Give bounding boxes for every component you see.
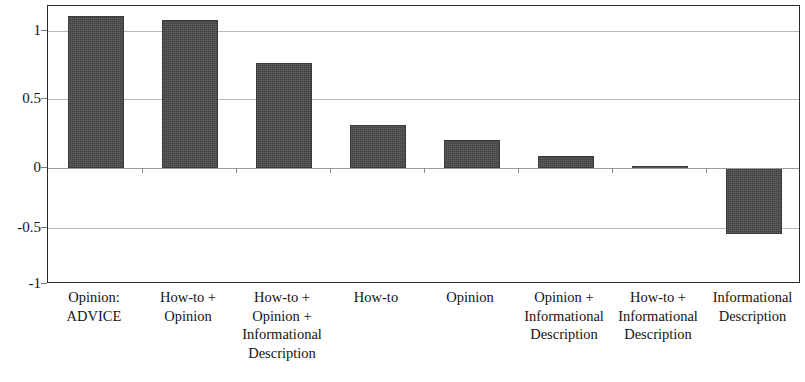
gridline--0.5 — [48, 228, 799, 229]
y-axis-tick-label-0: 0 — [0, 160, 41, 175]
x-axis-tick-7 — [706, 168, 707, 173]
x-axis-label-howto-opinion-informational: How-to + Opinion + Informational Descrip… — [235, 288, 329, 362]
x-axis-tick-3 — [330, 168, 331, 173]
bar-opinion-informational — [538, 156, 594, 168]
x-axis-tick-4 — [424, 168, 425, 173]
x-axis-tick-6 — [612, 168, 613, 173]
x-axis-label-opinion: Opinion — [423, 288, 517, 307]
x-axis-category-labels: Opinion: ADVICE How-to + Opinion How-to … — [47, 288, 800, 382]
y-axis-tick-label-0.5: 0.5 — [0, 91, 41, 106]
gridline-1 — [48, 31, 799, 32]
bar-informational-description — [726, 168, 782, 234]
x-axis-tick-2 — [236, 168, 237, 173]
bar-howto-opinion — [162, 20, 218, 168]
plot-area — [47, 5, 800, 283]
bar-opinion — [444, 140, 500, 168]
x-axis-label-opinion-advice: Opinion: ADVICE — [47, 288, 141, 325]
x-axis-label-howto: How-to — [329, 288, 423, 307]
x-axis-tick-1 — [142, 168, 143, 173]
bar-howto-opinion-informational — [256, 63, 312, 168]
x-axis-label-howto-informational: How-to + Informational Description — [611, 288, 705, 344]
bar-howto — [350, 125, 406, 168]
chart-figure: 1 0.5 0 -0.5 -1 — [0, 0, 805, 382]
y-axis-tick-label-1: 1 — [0, 23, 41, 38]
gridline-0.5 — [48, 99, 799, 100]
y-axis-tick-mark--1 — [41, 283, 47, 284]
x-axis-label-opinion-informational: Opinion + Informational Description — [517, 288, 611, 344]
x-axis-label-informational-description: Informational Description — [705, 288, 800, 325]
y-axis-tick-label--1: -1 — [0, 276, 41, 291]
bar-opinion-advice — [68, 16, 124, 168]
x-axis-label-howto-opinion: How-to + Opinion — [141, 288, 235, 325]
x-axis-tick-5 — [518, 168, 519, 173]
y-axis-tick-label--0.5: -0.5 — [0, 220, 41, 235]
